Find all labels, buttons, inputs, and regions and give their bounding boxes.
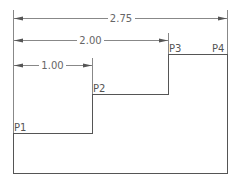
point-label-p3: P3 bbox=[169, 43, 181, 54]
point-label-p1: P1 bbox=[14, 122, 26, 133]
dimension-1-00: 1.00 bbox=[14, 60, 92, 71]
profile-outline bbox=[14, 55, 228, 174]
arrow-left-icon bbox=[14, 39, 23, 43]
arrow-left-icon bbox=[14, 17, 23, 21]
point-label-p4: P4 bbox=[212, 43, 224, 54]
arrow-right-icon bbox=[218, 17, 227, 21]
dimension-label: 1.00 bbox=[41, 60, 63, 71]
arrow-right-icon bbox=[159, 39, 168, 43]
arrow-right-icon bbox=[83, 64, 92, 68]
arrow-left-icon bbox=[14, 64, 23, 68]
dimension-2-00: 2.00 bbox=[14, 35, 168, 46]
drawing-canvas: 2.75 2.00 1.00 P1 P2 P3 P4 bbox=[0, 0, 239, 179]
dimension-label: 2.75 bbox=[110, 13, 132, 24]
dimension-2-75: 2.75 bbox=[14, 13, 227, 24]
dimension-label: 2.00 bbox=[79, 35, 101, 46]
point-label-p2: P2 bbox=[93, 83, 105, 94]
